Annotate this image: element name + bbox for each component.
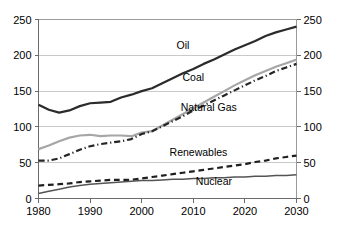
series-label-nuclear: Nuclear [196, 175, 233, 187]
y-axis-label-right-150: 150 [304, 85, 322, 97]
y-axis-label-right-0: 0 [304, 193, 310, 205]
x-axis-label-1980: 1980 [26, 205, 50, 217]
y-axis-label-right-250: 250 [304, 14, 322, 26]
y-axis-label-right-100: 100 [304, 121, 322, 133]
y-axis-label-right-200: 200 [304, 49, 322, 61]
x-axis-label-2000: 2000 [129, 205, 153, 217]
plot-background [39, 20, 297, 199]
y-axis-label-right-50: 50 [304, 157, 316, 169]
series-label-oil: Oil [177, 39, 190, 51]
y-axis-label-left-150: 150 [13, 85, 31, 97]
x-axis-label-2020: 2020 [233, 205, 257, 217]
x-axis-label-1990: 1990 [78, 205, 102, 217]
y-axis-label-left-0: 0 [25, 193, 31, 205]
energy-consumption-chart: 0050501001001501502002002502501980199020… [0, 0, 343, 235]
series-label-natural-gas: Natural Gas [181, 101, 237, 113]
chart-canvas: 0050501001001501502002002502501980199020… [0, 0, 343, 235]
y-axis-label-left-250: 250 [13, 14, 31, 26]
y-axis-label-left-50: 50 [19, 157, 31, 169]
y-axis-label-left-200: 200 [13, 49, 31, 61]
y-axis-label-left-100: 100 [13, 121, 31, 133]
x-axis-label-2030: 2030 [284, 205, 308, 217]
series-label-coal: Coal [182, 71, 204, 83]
x-axis-label-2010: 2010 [181, 205, 205, 217]
series-label-renewables: Renewables [170, 146, 228, 158]
